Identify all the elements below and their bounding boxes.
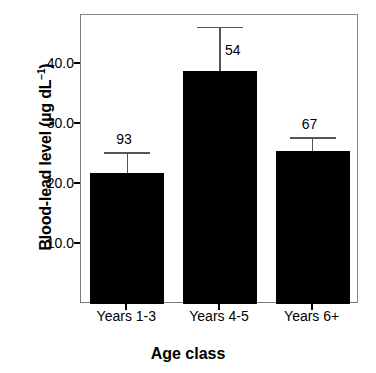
y-axis-tick-label: 30.0 xyxy=(28,116,74,130)
x-axis-tick-label: Years 6+ xyxy=(267,308,357,324)
x-axis-tick-label: Years 1-3 xyxy=(81,308,171,324)
bar-annotation: 67 xyxy=(302,117,318,131)
x-axis-title: Age class xyxy=(0,345,376,363)
bar-annotation: 54 xyxy=(225,43,241,57)
y-axis-tick-label: 10.0 xyxy=(28,236,74,250)
x-axis-tick-label: Years 4-5 xyxy=(174,308,264,324)
plot-area: 935467 xyxy=(80,14,358,303)
bar xyxy=(276,151,350,304)
y-axis-tick-labels: 10.020.030.040.0 xyxy=(24,0,74,373)
chart-figure: Blood-lead level (µg dL−1) 10.020.030.04… xyxy=(0,0,376,373)
error-bar-cap xyxy=(197,27,243,29)
y-axis-tick-label: 20.0 xyxy=(28,176,74,190)
error-bar-line xyxy=(219,27,221,71)
bar xyxy=(183,71,257,304)
error-bar-cap xyxy=(290,137,336,139)
error-bar-cap xyxy=(104,152,150,154)
error-bar-line xyxy=(127,152,129,173)
bar xyxy=(90,173,164,304)
bar-annotation: 93 xyxy=(116,132,132,146)
y-axis-tick-label: 40.0 xyxy=(28,56,74,70)
error-bar-line xyxy=(312,137,314,150)
